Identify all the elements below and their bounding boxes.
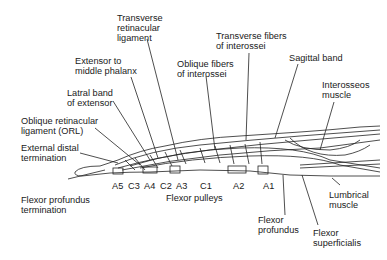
pulley-label-a4: A4: [144, 181, 155, 191]
pulley-label-c3: C3: [128, 181, 140, 191]
label-extensor-middle-phalanx: Extensor to middle phalanx: [75, 56, 137, 76]
label-flexor-superficialis: Flexor superficialis: [313, 228, 361, 248]
pulley-label-a1: A1: [263, 181, 274, 191]
label-sagittal-band: Sagittal band: [289, 53, 343, 63]
label-oblique-retinacular-ligament: Oblique retinacular ligament (ORL): [21, 116, 98, 136]
label-external-distal-termination: External distal termination: [21, 143, 79, 163]
label-lumbrical-muscle: Lumbrical muscle: [329, 190, 369, 210]
label-flexor-profundus-termination: Flexor profundus termination: [21, 195, 90, 215]
pulley-label-a2: A2: [233, 181, 244, 191]
label-flexor-pulleys: Flexor pulleys: [166, 193, 223, 203]
pulley-label-a5: A5: [112, 181, 123, 191]
label-flexor-profundus: Flexor profundus: [258, 215, 299, 235]
pulley-label-c2: C2: [160, 181, 172, 191]
label-lateral-band: Latral band of extensor: [67, 88, 113, 108]
label-transverse-retinacular-ligament: Transverse retinacular ligament: [117, 13, 163, 43]
pulley-label-a3: A3: [176, 181, 187, 191]
pulley-label-c1: C1: [200, 181, 212, 191]
label-interosseos-muscle: Interosseos muscle: [322, 80, 370, 100]
label-transverse-fibers-interossei: Transverse fibers of interossei: [216, 31, 287, 51]
label-oblique-fibers-interossei: Oblique fibers of interossei: [177, 59, 234, 79]
